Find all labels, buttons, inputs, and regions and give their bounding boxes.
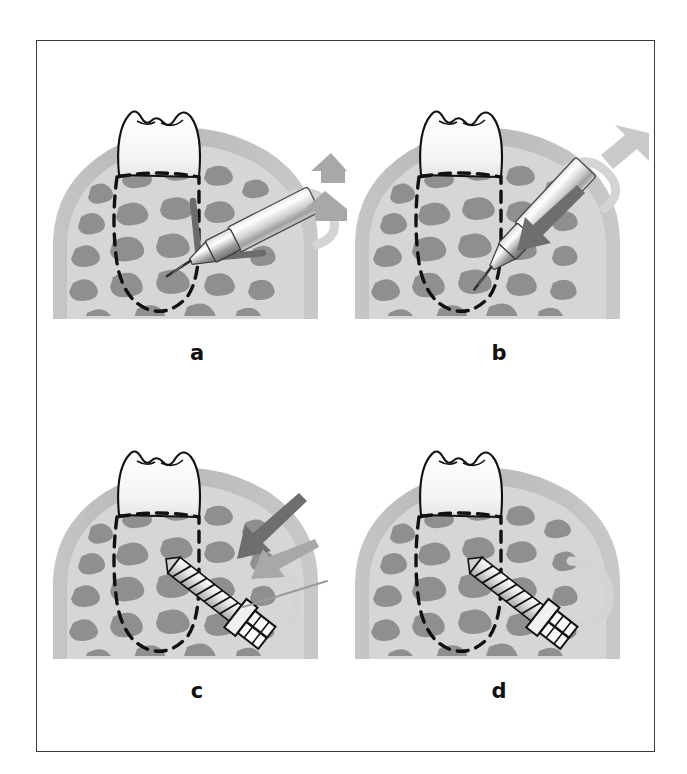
figure-frame: a	[36, 40, 655, 752]
tooth-a	[118, 111, 200, 177]
panel-a: a	[47, 91, 347, 371]
panel-d: d	[349, 421, 649, 711]
push-arrow-upper-a	[311, 153, 347, 183]
panel-label-d: d	[479, 679, 519, 703]
tooth-crown-c	[118, 451, 200, 517]
panel-b-illustration	[349, 91, 649, 371]
figure-root: a	[0, 0, 687, 774]
tooth-crown-b	[420, 111, 502, 177]
panel-label-a: a	[177, 341, 217, 365]
tooth-crown-d	[420, 451, 502, 517]
tooth-d	[420, 451, 502, 517]
panel-label-b: b	[479, 341, 519, 365]
panel-a-illustration	[47, 91, 347, 371]
panel-label-c: c	[177, 679, 217, 703]
tooth-b	[420, 111, 502, 177]
panel-c: c	[47, 421, 347, 711]
panel-d-illustration	[349, 421, 649, 711]
tooth-crown-a	[118, 111, 200, 177]
panel-c-illustration	[47, 421, 347, 711]
panel-b: b	[349, 91, 649, 371]
pressure-arrow-b	[601, 125, 649, 169]
tooth-c	[118, 451, 200, 517]
